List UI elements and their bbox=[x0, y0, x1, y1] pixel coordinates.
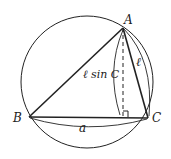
side-AC bbox=[123, 28, 148, 118]
side-BC-label: a bbox=[79, 121, 86, 135]
vertex-B-label: B bbox=[12, 111, 22, 125]
circumcircle bbox=[21, 16, 153, 148]
vertex-A-label: A bbox=[123, 13, 133, 27]
triangle-circle-diagram: A B C ℓ sin C ℓ a bbox=[0, 0, 171, 159]
side-AC-label: ℓ bbox=[136, 55, 141, 69]
side-BC-brace bbox=[30, 118, 147, 127]
side-AC-brace bbox=[124, 29, 150, 116]
side-BC bbox=[29, 117, 148, 118]
right-angle-marker bbox=[123, 111, 128, 117]
altitude-label: ℓ sin C bbox=[83, 68, 120, 81]
vertex-C-label: C bbox=[152, 111, 161, 125]
